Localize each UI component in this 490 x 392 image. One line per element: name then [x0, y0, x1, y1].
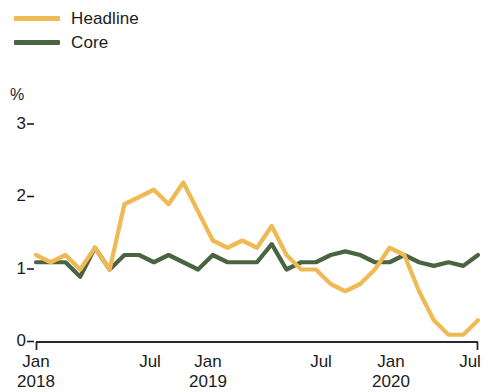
series-layer	[36, 183, 478, 335]
x-tick-label-jul-2019: Jul	[281, 352, 361, 372]
chart-canvas	[0, 0, 490, 392]
x-tick-label-jan-2019: Jan	[168, 352, 248, 372]
x-tick-label-jan-2020: Jan	[351, 352, 431, 372]
x-tick-year-2019: 2019	[168, 372, 248, 392]
x-tick-year-2020: 2020	[351, 372, 431, 392]
x-tick-label-jul-2020: Jul	[430, 352, 490, 372]
y-tick-marks	[27, 124, 34, 342]
inflation-line-chart: Headline Core % 3 2 1 0 Jan 2018 Jul Jan…	[0, 0, 490, 392]
x-axis-line	[36, 342, 478, 350]
x-tick-label-jan-2018: Jan	[0, 352, 76, 372]
x-tick-year-2018: 2018	[0, 372, 76, 392]
